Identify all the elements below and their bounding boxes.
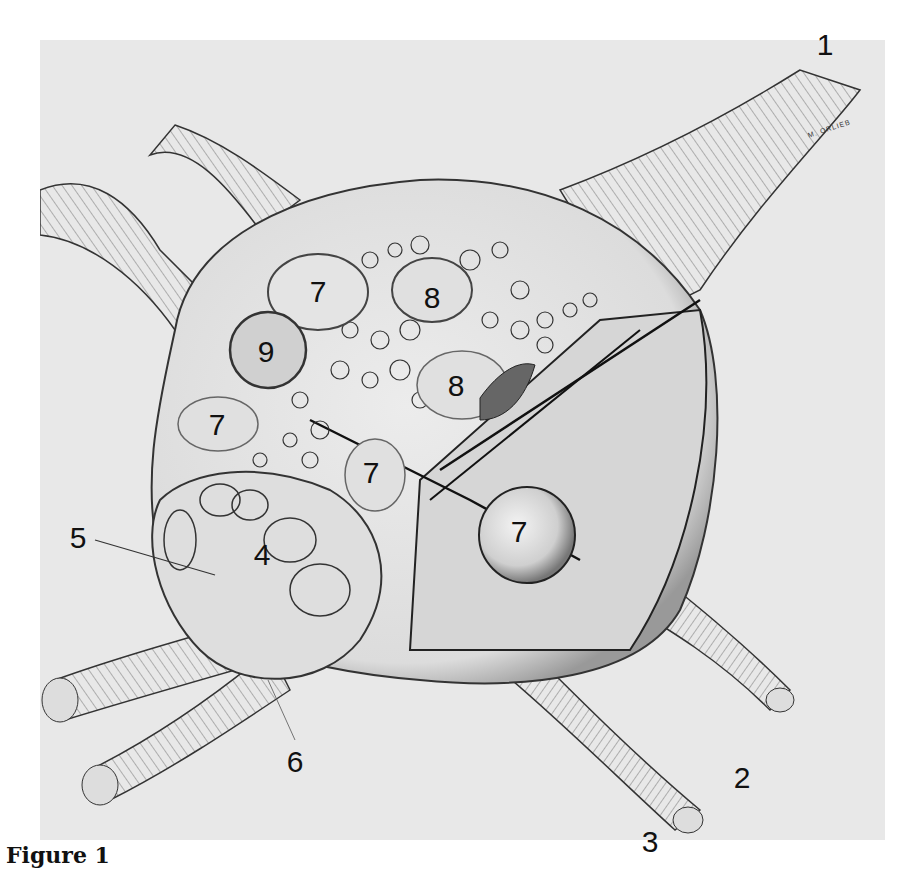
label-4: 4 [254,540,271,570]
label-7b: 7 [209,410,226,440]
anatomical-illustration: M. ORLIEB [40,40,885,840]
label-8b: 8 [448,371,465,401]
label-8a: 8 [424,283,441,313]
label-9: 9 [258,337,275,367]
label-5: 5 [70,523,87,553]
label-3: 3 [642,827,659,857]
label-1: 1 [817,30,834,60]
label-2: 2 [734,763,751,793]
label-7d: 7 [511,517,528,547]
label-7c: 7 [363,458,380,488]
illustration-drawing [40,40,885,840]
label-7a: 7 [310,277,327,307]
figure-caption: Figure 1 [6,842,110,868]
label-6: 6 [287,747,304,777]
